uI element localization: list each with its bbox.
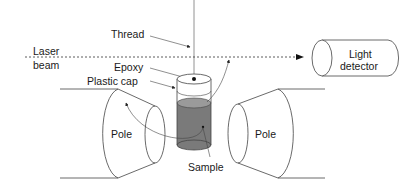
right-pole-label: Pole [255, 128, 276, 140]
diagram-canvas [0, 0, 414, 188]
thread-leader [150, 36, 190, 47]
plastic-cap-leader [150, 81, 175, 88]
laser-arrowhead-icon [296, 54, 304, 60]
light-detector-label-line1: Light [349, 48, 372, 60]
laser-label-line1: Laser [33, 45, 59, 57]
light-detector-label-line2: detector [340, 60, 378, 72]
epoxy-dot [192, 77, 196, 81]
laser-label-line2: beam [33, 59, 59, 71]
sample-label: Sample [188, 161, 224, 173]
plastic-cap-label: Plastic cap [87, 75, 138, 87]
left-pole-label: Pole [111, 128, 132, 140]
thread-label: Thread [111, 28, 144, 40]
epoxy-label: Epoxy [114, 61, 143, 73]
